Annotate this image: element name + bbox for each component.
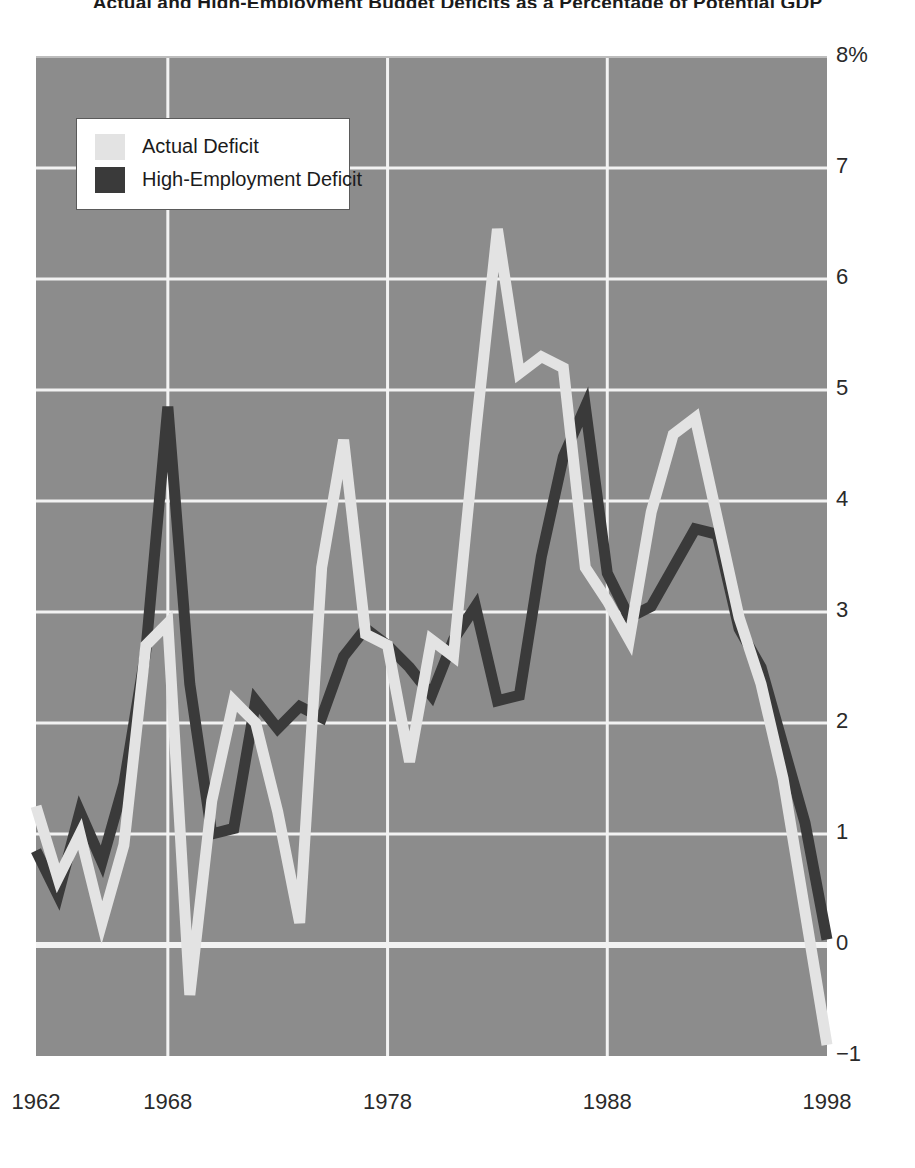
x-tick-label: 1998 [767,1089,887,1115]
x-tick-label: 1988 [547,1089,667,1115]
y-tick-label: 5 [836,375,906,401]
chart-page: Actual and High-Employment Budget Defici… [0,0,915,1168]
y-tick-label: 3 [836,597,906,623]
x-tick-label: 1978 [328,1089,448,1115]
y-tick-label: 6 [836,264,906,290]
y-tick-label: 2 [836,708,906,734]
x-tick-label: 1968 [108,1089,228,1115]
legend-item-high-employment-deficit: High-Employment Deficit [95,163,349,196]
y-tick-label: 4 [836,486,906,512]
actual-deficit-swatch [95,134,125,160]
y-tick-label: 8% [836,42,906,68]
x-tick-label: 1962 [0,1089,96,1115]
y-tick-label: 1 [836,819,906,845]
y-tick-label: 0 [836,930,906,956]
high-employment-deficit-swatch [95,167,125,193]
chart-legend: Actual Deficit High-Employment Deficit [76,118,350,210]
legend-label-high-employment-deficit: High-Employment Deficit [142,168,362,191]
y-tick-label: 7 [836,153,906,179]
legend-label-actual-deficit: Actual Deficit [142,135,259,158]
y-tick-label: −1 [836,1041,906,1067]
legend-item-actual-deficit: Actual Deficit [95,130,349,163]
